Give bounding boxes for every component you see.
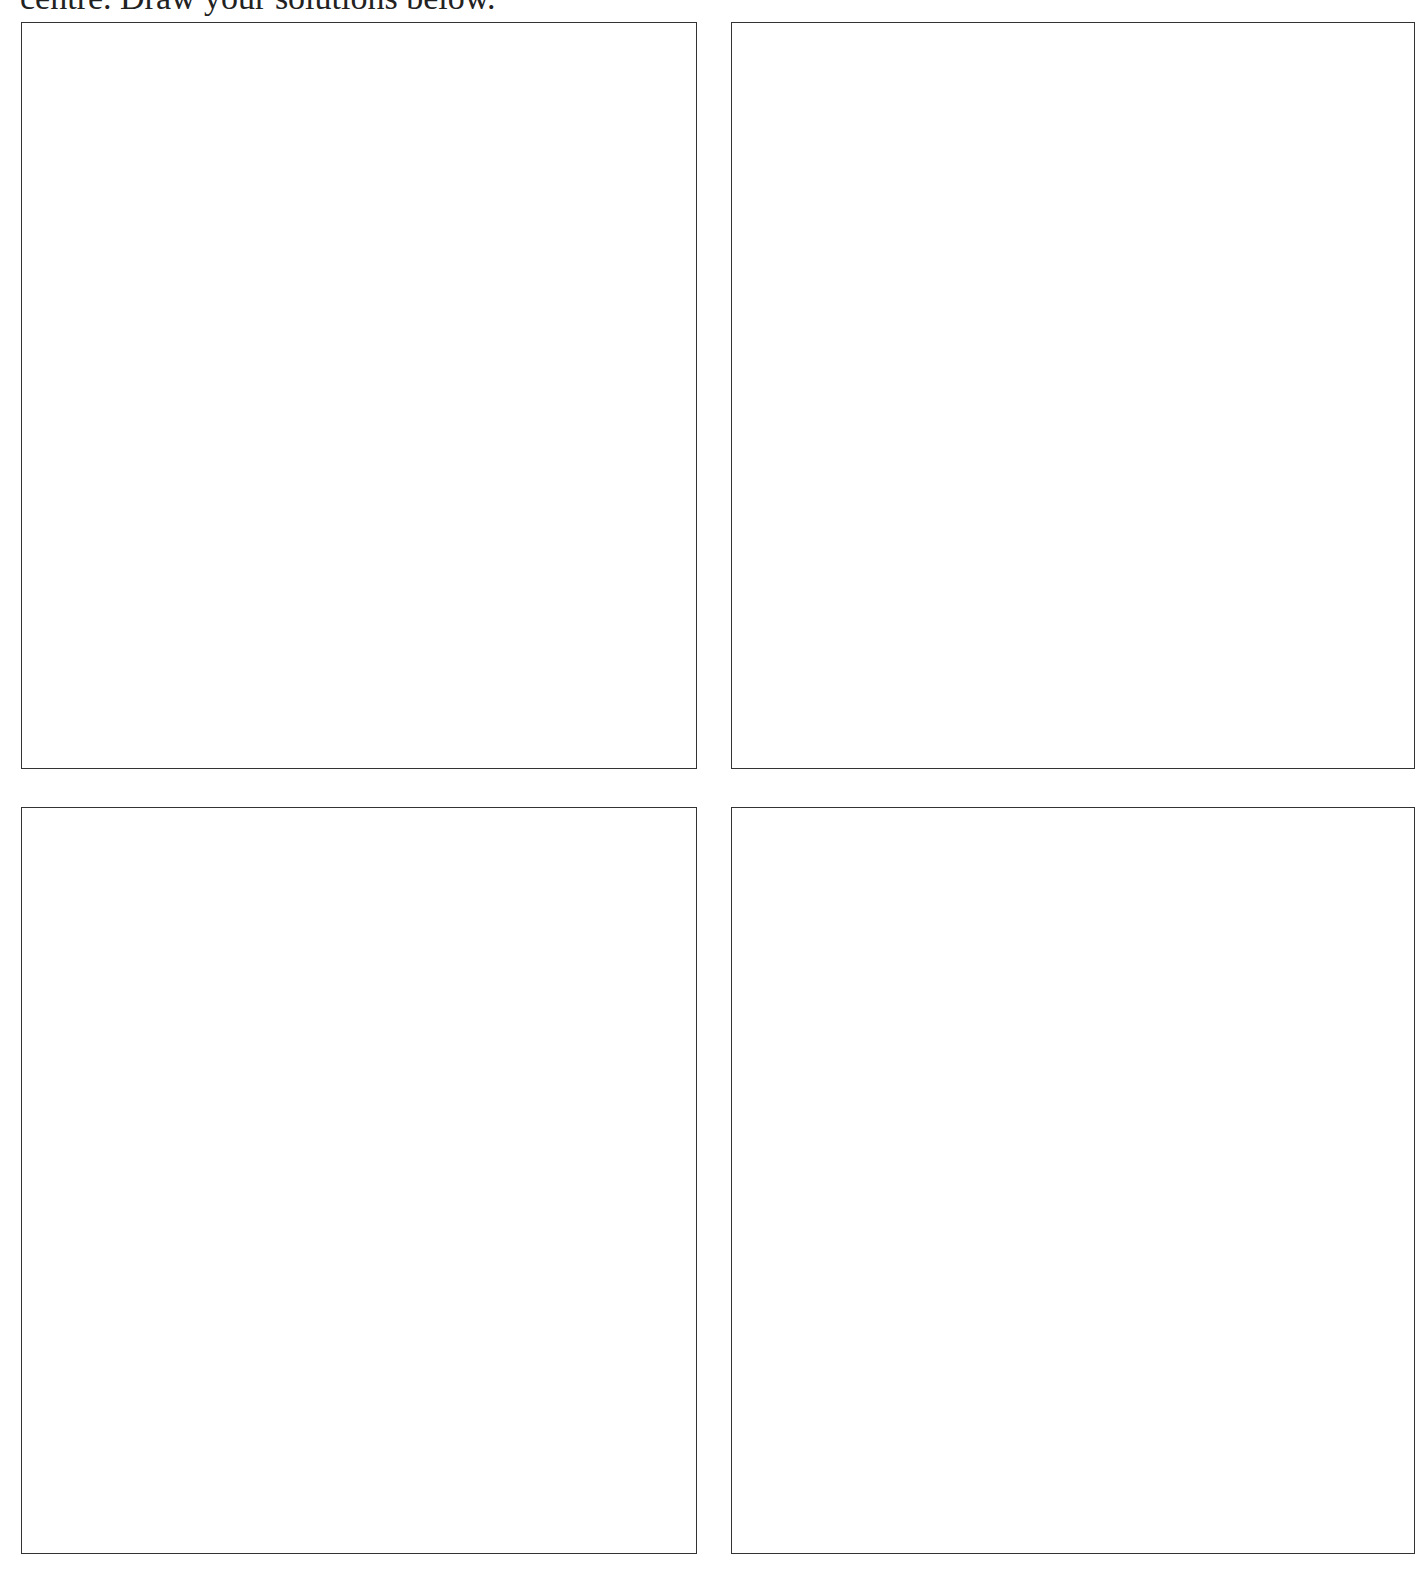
instruction-text: centre. Draw your solutions below. — [20, 0, 496, 18]
solution-box-2[interactable] — [731, 22, 1415, 769]
solution-box-3[interactable] — [21, 807, 697, 1554]
solution-box-1[interactable] — [21, 22, 697, 769]
solution-box-4[interactable] — [731, 807, 1415, 1554]
